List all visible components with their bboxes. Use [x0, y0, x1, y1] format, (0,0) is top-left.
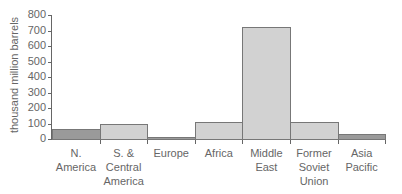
y-tick — [48, 31, 52, 32]
y-tick-label: 700 — [16, 24, 46, 36]
bar-n-america — [52, 129, 101, 140]
y-tick — [48, 108, 52, 109]
y-tick — [48, 15, 52, 16]
category-label: S. &CentralAmerica — [100, 146, 148, 188]
y-tick-label: 300 — [16, 86, 46, 98]
category-label: N.America — [52, 146, 100, 174]
y-tick — [48, 77, 52, 78]
y-tick — [48, 62, 52, 63]
y-tick — [48, 93, 52, 94]
y-tick-label: 800 — [16, 8, 46, 20]
y-tick-label: 600 — [16, 39, 46, 51]
category-label: AsiaPacific — [338, 146, 386, 174]
category-label: MiddleEast — [242, 146, 290, 174]
bar-europe — [147, 137, 196, 140]
y-tick-label: 500 — [16, 55, 46, 67]
y-tick — [48, 46, 52, 47]
category-label: Europe — [147, 146, 195, 160]
y-tick-label: 200 — [16, 101, 46, 113]
bar-former-soviet-union — [290, 122, 339, 140]
y-tick-label: 0 — [16, 132, 46, 144]
bar-asia-pacific — [338, 134, 387, 140]
bar-africa — [195, 122, 244, 140]
bar-middle-east — [242, 27, 291, 140]
category-label: FormerSovietUnion — [290, 146, 338, 188]
bar-s-central-america — [100, 124, 149, 141]
y-tick-label: 400 — [16, 70, 46, 82]
category-label: Africa — [195, 146, 243, 160]
y-tick-label: 100 — [16, 117, 46, 129]
bar-chart: thousand million barrels 010020030040050… — [0, 0, 402, 194]
y-tick — [48, 124, 52, 125]
